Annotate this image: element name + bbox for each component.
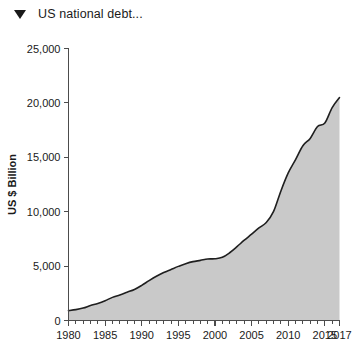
y-tick-label: 25,000 (27, 43, 61, 55)
y-tick-labels: 05,00010,00015,00020,00025,000 (27, 43, 61, 327)
y-tick-label: 5,000 (33, 260, 61, 272)
chart-widget: US national debt... 05,00010,00015,00020… (0, 0, 358, 353)
triangle-down-icon[interactable] (14, 10, 26, 19)
y-axis-title-group: US $ Billion (6, 154, 18, 215)
widget-header: US national debt... (0, 0, 358, 28)
y-tick-label: 10,000 (27, 206, 61, 218)
x-tick-label: 2000 (203, 329, 227, 341)
x-tick-label: 1980 (56, 329, 80, 341)
y-axis-title: US $ Billion (6, 154, 18, 215)
x-tick-label: 1990 (130, 329, 154, 341)
x-tick-label: 2005 (239, 329, 263, 341)
area-chart: 05,00010,00015,00020,00025,000 198019851… (0, 28, 358, 353)
chart-area: 05,00010,00015,00020,00025,000 198019851… (0, 28, 358, 353)
y-tick-label: 0 (54, 315, 60, 327)
y-tick-label: 15,000 (27, 151, 61, 163)
x-tick-label: 1985 (93, 329, 117, 341)
series-area-group (69, 98, 340, 321)
x-tick-label: 2017 (327, 329, 351, 341)
x-tick-label: 1995 (166, 329, 190, 341)
y-tick-label: 20,000 (27, 97, 61, 109)
page-title: US national debt... (38, 7, 143, 21)
series-area (69, 98, 340, 321)
x-tick-labels: 198019851990199520002005201020152017 (56, 329, 351, 341)
x-tick-label: 2010 (276, 329, 300, 341)
